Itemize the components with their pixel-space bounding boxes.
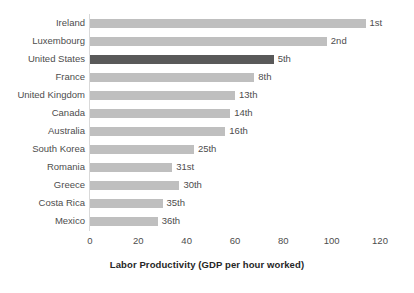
bar-row: Australia16th	[90, 122, 380, 140]
bar	[90, 181, 179, 190]
category-label: United States	[28, 50, 85, 68]
bar	[90, 217, 158, 226]
category-label: Greece	[54, 176, 85, 194]
x-tick-label: 0	[87, 233, 92, 249]
bar	[90, 91, 235, 100]
category-label: Canada	[52, 104, 85, 122]
x-tick-label: 40	[181, 233, 192, 249]
category-label: Luxembourg	[32, 32, 85, 50]
x-tick-label: 120	[372, 233, 388, 249]
bar-row: Ireland1st	[90, 14, 380, 32]
bar-value-label: 25th	[198, 140, 217, 158]
bar	[90, 109, 230, 118]
bar-value-label: 36th	[162, 212, 181, 230]
bar	[90, 199, 163, 208]
bar	[90, 55, 274, 64]
bar-row: Costa Rica35th	[90, 194, 380, 212]
bar	[90, 145, 194, 154]
bar-value-label: 5th	[278, 50, 291, 68]
plot-area: Ireland1stLuxembourg2ndUnited States5thF…	[90, 14, 380, 230]
bar-row: South Korea25th	[90, 140, 380, 158]
bar	[90, 127, 225, 136]
category-label: South Korea	[32, 140, 85, 158]
category-label: France	[55, 68, 85, 86]
bar-row: Mexico36th	[90, 212, 380, 230]
bar-value-label: 31st	[176, 158, 194, 176]
bar-row: Luxembourg2nd	[90, 32, 380, 50]
bar-value-label: 35th	[167, 194, 186, 212]
bar-value-label: 14th	[234, 104, 253, 122]
x-tick-label: 20	[133, 233, 144, 249]
bar-row: Romania31st	[90, 158, 380, 176]
category-label: Ireland	[56, 14, 85, 32]
x-tick-label: 60	[230, 233, 241, 249]
category-label: United Kingdom	[17, 86, 85, 104]
bar-value-label: 1st	[370, 14, 383, 32]
bar	[90, 163, 172, 172]
bar-value-label: 13th	[239, 86, 258, 104]
bar-row: Greece30th	[90, 176, 380, 194]
bar-row: France8th	[90, 68, 380, 86]
category-label: Costa Rica	[39, 194, 85, 212]
bar-chart: Ireland1stLuxembourg2ndUnited States5thF…	[0, 0, 414, 293]
x-axis-title: Labor Productivity (GDP per hour worked)	[0, 259, 414, 270]
x-tick-label: 80	[278, 233, 289, 249]
category-label: Australia	[48, 122, 85, 140]
bar	[90, 73, 254, 82]
bar-value-label: 16th	[229, 122, 248, 140]
bar-value-label: 30th	[183, 176, 202, 194]
bar	[90, 37, 327, 46]
x-tick-label: 100	[324, 233, 340, 249]
bar-row: United Kingdom13th	[90, 86, 380, 104]
category-label: Romania	[47, 158, 85, 176]
bar	[90, 19, 366, 28]
category-label: Mexico	[55, 212, 85, 230]
bar-value-label: 2nd	[331, 32, 347, 50]
bar-value-label: 8th	[258, 68, 271, 86]
x-axis: 020406080100120	[90, 233, 380, 249]
bar-row: United States5th	[90, 50, 380, 68]
bar-row: Canada14th	[90, 104, 380, 122]
